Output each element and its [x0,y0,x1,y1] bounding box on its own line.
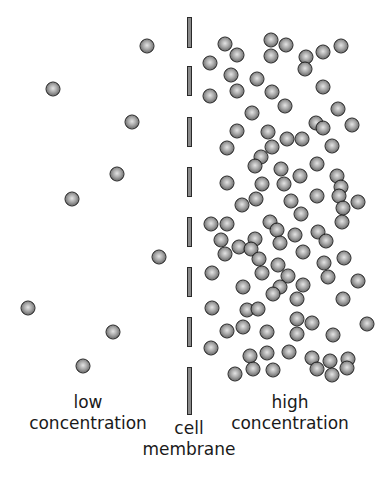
molecule-icon [218,247,233,262]
molecule-icon [360,317,375,332]
molecule-icon [310,189,325,204]
molecule-icon [224,68,239,83]
molecule-icon [46,82,61,97]
molecule-icon [265,85,280,100]
molecule-icon [260,346,275,361]
molecule-icon [316,45,331,60]
molecule-icon [334,39,349,54]
molecule-icon [282,345,297,360]
membrane-segment [187,17,192,48]
molecule-icon [298,62,313,77]
molecule-icon [245,106,260,121]
molecule-icon [277,177,292,192]
molecule-icon [336,201,351,216]
high-label-line1: high [231,392,349,413]
diffusion-diagram: low concentration high concentration cel… [0,0,386,480]
low-label-line1: low [29,392,147,413]
molecule-icon [140,39,155,54]
molecule-icon [278,99,293,114]
molecule-icon [351,274,366,289]
molecule-icon [220,217,235,232]
molecule-icon [125,115,140,130]
molecule-icon [205,266,220,281]
molecule-icon [204,217,219,232]
molecule-icon [203,89,218,104]
molecule-icon [252,252,267,267]
molecule-icon [228,367,243,382]
molecule-icon [236,320,251,335]
molecule-icon [310,362,325,377]
molecule-icon [296,245,311,260]
membrane-segment [187,217,192,247]
molecule-icon [220,141,235,156]
molecule-icon [203,56,218,71]
membrane-segment [187,66,192,96]
molecule-icon [284,194,299,209]
molecule-icon [220,324,235,339]
membrane-segment [187,167,192,197]
molecule-icon [305,316,320,331]
molecule-icon [264,49,279,64]
molecule-icon [279,38,294,53]
molecule-icon [317,256,332,271]
molecule-icon [336,292,351,307]
molecule-icon [230,124,245,139]
molecule-icon [110,167,125,182]
molecule-icon [290,292,305,307]
molecule-icon [261,125,276,140]
molecule-icon [266,363,281,378]
low-label-line2: concentration [29,413,147,434]
membrane-segment [187,117,192,147]
molecule-icon [310,157,325,172]
membrane-label-line1: cell [142,418,235,439]
molecule-icon [325,139,340,154]
molecule-icon [296,278,311,293]
molecule-icon [264,33,279,48]
molecule-icon [230,48,245,63]
molecule-icon [340,361,355,376]
molecule-icon [248,159,263,174]
molecule-icon [345,118,360,133]
molecule-icon [152,250,167,265]
molecule-icon [204,341,219,356]
molecule-icon [255,266,270,281]
molecule-icon [294,207,309,222]
molecule-icon [293,169,308,184]
molecule-icon [351,195,366,210]
molecule-icon [274,162,289,177]
molecule-icon [230,84,245,99]
molecule-icon [235,198,250,213]
molecule-icon [316,121,331,136]
molecule-icon [321,270,336,285]
molecule-icon [288,228,303,243]
molecule-icon [323,354,338,369]
molecule-icon [246,362,261,377]
molecule-icon [290,327,305,342]
molecule-icon [255,177,270,192]
membrane-segment [187,267,192,297]
molecule-icon [220,176,235,191]
molecule-icon [21,301,36,316]
molecule-icon [316,80,331,95]
molecule-icon [106,325,121,340]
high-concentration-label: high concentration [231,392,349,434]
molecule-icon [325,368,340,383]
membrane-label-line2: membrane [142,439,235,460]
molecule-icon [295,132,310,147]
molecule-icon [236,280,251,295]
molecule-icon [273,236,288,251]
molecule-icon [280,132,295,147]
molecule-icon [249,192,264,207]
molecule-icon [260,325,275,340]
low-concentration-label: low concentration [29,392,147,434]
molecule-icon [250,72,265,87]
membrane-segment [187,367,192,415]
molecule-icon [335,215,350,230]
molecule-icon [76,359,91,374]
molecule-icon [337,251,352,266]
cell-membrane-label: cell membrane [142,418,235,460]
molecule-icon [205,301,220,316]
molecule-icon [65,192,80,207]
molecule-icon [214,233,229,248]
molecule-icon [251,302,266,317]
